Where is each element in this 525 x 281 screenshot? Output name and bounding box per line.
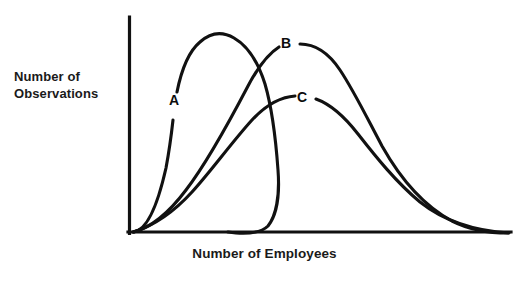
curve-label-c: C xyxy=(297,90,307,104)
y-axis-title: Number of Observations xyxy=(14,68,120,102)
chart-canvas xyxy=(0,0,525,281)
distribution-curves-figure: Number of Observations Number of Employe… xyxy=(0,0,525,281)
y-axis-title-line-1: Number of xyxy=(14,68,120,85)
curve-label-b: B xyxy=(281,36,291,50)
curve-b-right-segment xyxy=(300,44,508,233)
x-axis-title: Number of Employees xyxy=(2,246,525,261)
curve-a xyxy=(133,34,279,233)
curve-label-a: A xyxy=(169,93,179,107)
curve-b xyxy=(133,44,508,233)
curve-c xyxy=(134,96,509,233)
y-axis-title-line-2: Observations xyxy=(14,85,120,102)
curve-c-right-segment xyxy=(316,99,509,233)
